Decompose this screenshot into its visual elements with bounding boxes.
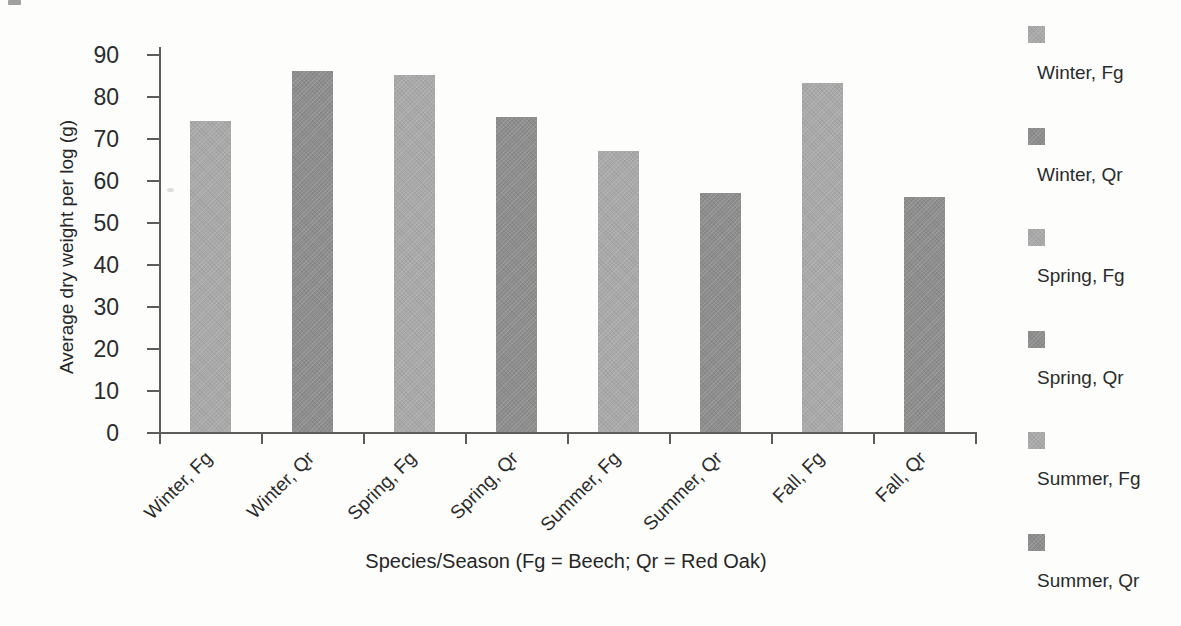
legend-swatch-summer-fg (1028, 432, 1045, 449)
legend-label: Summer, Fg (1037, 468, 1140, 490)
y-axis-tick (147, 390, 159, 392)
x-axis-tick (159, 432, 161, 444)
y-axis-tick (147, 264, 159, 266)
bar-spring-qr (496, 117, 537, 432)
y-axis-tick (147, 348, 159, 350)
y-tick-label: 70 (49, 127, 119, 151)
legend-swatch-spring-qr (1028, 331, 1045, 348)
scanned-bar-chart-figure: Average dry weight per log (g) Species/S… (0, 0, 1181, 626)
legend-label: Spring, Fg (1037, 265, 1125, 287)
y-tick-label: 40 (49, 253, 119, 277)
y-axis-tick (147, 54, 159, 56)
x-axis-tick (873, 432, 875, 444)
legend-label: Winter, Fg (1037, 62, 1124, 84)
bar-summer-fg (598, 151, 639, 432)
bar-summer-qr (700, 193, 741, 432)
bar-winter-qr (292, 71, 333, 432)
x-axis-tick (771, 432, 773, 444)
x-axis-tick (363, 432, 365, 444)
y-tick-label: 30 (49, 295, 119, 319)
y-axis-tick (147, 138, 159, 140)
y-tick-label: 60 (49, 169, 119, 193)
legend-swatch-summer-qr (1028, 534, 1045, 551)
bar-spring-fg (394, 75, 435, 432)
x-axis-tick (567, 432, 569, 444)
bar-fall-fg (802, 83, 843, 432)
legend-label: Summer, Qr (1037, 570, 1139, 592)
legend: Winter, FgWinter, QrSpring, FgSpring, Qr… (0, 0, 1181, 626)
y-tick-label: 90 (49, 43, 119, 67)
x-axis-title: Species/Season (Fg = Beech; Qr = Red Oak… (266, 550, 866, 573)
y-tick-label: 10 (49, 379, 119, 403)
y-axis-tick (147, 96, 159, 98)
x-axis-tick (669, 432, 671, 444)
y-tick-label: 80 (49, 85, 119, 109)
y-tick-label: 0 (49, 421, 119, 445)
y-axis-tick (147, 306, 159, 308)
x-category-label: Fall, Qr (810, 448, 930, 568)
y-axis-tick (147, 180, 159, 182)
y-tick-label: 20 (49, 337, 119, 361)
scan-artifact-speck (167, 188, 174, 192)
x-axis-tick (261, 432, 263, 444)
y-axis-tick (147, 432, 159, 434)
x-axis-tick (975, 432, 977, 444)
scan-artifact-mark (8, 0, 21, 5)
y-axis-tick (147, 222, 159, 224)
x-category-label: Winter, Fg (96, 448, 216, 568)
bar-fall-qr (904, 197, 945, 432)
legend-label: Spring, Qr (1037, 367, 1124, 389)
x-axis-tick (465, 432, 467, 444)
legend-swatch-winter-fg (1028, 26, 1045, 43)
legend-swatch-spring-fg (1028, 229, 1045, 246)
legend-label: Winter, Qr (1037, 164, 1123, 186)
y-axis-line (159, 47, 161, 434)
y-tick-label: 50 (49, 211, 119, 235)
bar-winter-fg (190, 121, 231, 432)
legend-swatch-winter-qr (1028, 128, 1045, 145)
